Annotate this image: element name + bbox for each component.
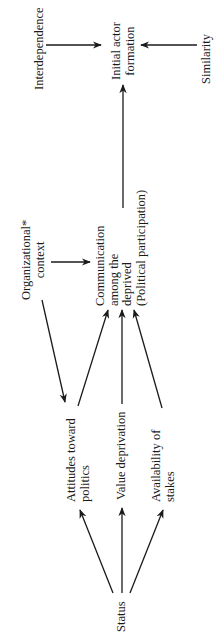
edge-status-attitudes: [80, 510, 113, 593]
node-organizational-context: Organizational* context: [20, 220, 47, 300]
node-attitudes: Attitudes toward politics: [65, 418, 92, 502]
node-org-line-2: context: [34, 220, 48, 300]
node-communication-line-3: deprived: [121, 190, 135, 306]
edges-layer: [0, 0, 214, 632]
node-value-deprivation: Value deprivation: [115, 411, 129, 500]
node-similarity: Similarity: [200, 34, 214, 84]
node-initial-actor-formation: Initial actor formation: [110, 22, 137, 80]
node-interdependence: Interdependence: [33, 7, 47, 90]
edge-availability-communication: [134, 310, 162, 408]
edge-org-attitudes: [42, 300, 65, 402]
node-availability-line-2: stakes: [164, 430, 178, 502]
node-communication-line-1: Communication: [94, 190, 108, 306]
node-initial-line-2: formation: [124, 22, 138, 80]
node-attitudes-line-1: Attitudes toward: [65, 418, 79, 502]
node-communication: Communication among the deprived (Politi…: [94, 190, 148, 306]
node-communication-line-4: (Political participation): [135, 190, 149, 306]
node-initial-line-1: Initial actor: [110, 22, 124, 80]
edge-attitudes-communication: [78, 310, 108, 406]
node-status-line-1: Status: [115, 601, 129, 632]
node-communication-line-2: among the: [108, 190, 122, 306]
edge-status-availability: [130, 510, 163, 593]
node-org-line-1: Organizational*: [20, 220, 34, 300]
node-status: Status: [115, 601, 129, 632]
node-attitudes-line-2: politics: [79, 418, 93, 502]
node-availability: Availability of stakes: [150, 430, 177, 502]
node-availability-line-1: Availability of: [150, 430, 164, 502]
node-value-line-1: Value deprivation: [115, 411, 129, 500]
node-similarity-line-1: Similarity: [200, 34, 214, 84]
node-interdependence-line-1: Interdependence: [33, 7, 47, 90]
